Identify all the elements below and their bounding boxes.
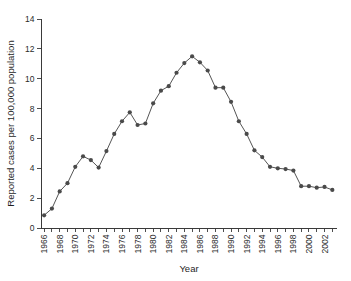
data-point <box>221 86 225 90</box>
x-axis-title: Year <box>179 263 198 274</box>
line-chart: 0246810121419661968197019721974197619781… <box>0 0 351 281</box>
data-point <box>330 188 334 192</box>
data-point <box>167 84 171 88</box>
data-point <box>174 71 178 75</box>
x-tick-label: 1994 <box>257 234 267 253</box>
data-point <box>198 60 202 64</box>
data-point <box>245 132 249 136</box>
data-point <box>97 165 101 169</box>
data-point <box>135 123 139 127</box>
data-point <box>315 186 319 190</box>
data-point <box>276 166 280 170</box>
x-tick-label: 1980 <box>148 234 158 253</box>
x-tick-label: 1972 <box>86 234 96 253</box>
y-tick-label: 10 <box>25 74 35 84</box>
y-tick-label: 12 <box>25 44 35 54</box>
data-point <box>120 119 124 123</box>
x-tick-label: 1990 <box>226 234 236 253</box>
data-point <box>73 165 77 169</box>
data-point <box>159 89 163 93</box>
data-point <box>104 149 108 153</box>
x-tick-label: 2000 <box>304 234 314 253</box>
data-point <box>128 110 132 114</box>
y-tick-label: 0 <box>30 223 35 233</box>
data-point <box>182 61 186 65</box>
x-tick-label: 1996 <box>273 234 283 253</box>
data-point <box>58 189 62 193</box>
data-point <box>268 165 272 169</box>
data-point <box>206 68 210 72</box>
y-axis-title: Reported cases per 100,000 population <box>5 40 16 206</box>
data-point <box>50 206 54 210</box>
data-point <box>190 54 194 58</box>
x-tick-label: 1998 <box>288 234 298 253</box>
data-point <box>65 181 69 185</box>
series-line <box>44 56 332 215</box>
data-point <box>112 132 116 136</box>
axis-labels: 0246810121419661968197019721974197619781… <box>5 14 330 274</box>
x-tick-label: 1968 <box>55 234 65 253</box>
x-tick-label: 1982 <box>164 234 174 253</box>
data-point <box>81 154 85 158</box>
data-point <box>299 184 303 188</box>
axes <box>37 19 337 232</box>
x-tick-label: 1988 <box>210 234 220 253</box>
x-tick-label: 1976 <box>117 234 127 253</box>
chart-figure: 0246810121419661968197019721974197619781… <box>0 0 351 281</box>
data-point <box>89 158 93 162</box>
x-tick-label: 1984 <box>179 234 189 253</box>
x-tick-label: 1970 <box>70 234 80 253</box>
x-tick-label: 1986 <box>195 234 205 253</box>
data-point <box>260 155 264 159</box>
data-point <box>252 148 256 152</box>
x-tick-label: 2002 <box>320 234 330 253</box>
y-tick-label: 2 <box>30 193 35 203</box>
data-point <box>322 185 326 189</box>
data-point <box>213 86 217 90</box>
x-tick-label: 1974 <box>101 234 111 253</box>
y-tick-label: 4 <box>30 163 35 173</box>
data-series <box>42 54 334 217</box>
data-point <box>283 167 287 171</box>
data-point <box>291 168 295 172</box>
x-tick-label: 1992 <box>242 234 252 253</box>
y-tick-label: 6 <box>30 133 35 143</box>
data-point <box>307 184 311 188</box>
data-point <box>42 213 46 217</box>
data-point <box>151 101 155 105</box>
data-point <box>143 121 147 125</box>
y-tick-label: 8 <box>30 104 35 114</box>
data-point <box>237 119 241 123</box>
x-tick-label: 1966 <box>39 234 49 253</box>
x-tick-label: 1978 <box>133 234 143 253</box>
y-tick-label: 14 <box>25 14 35 24</box>
data-point <box>229 100 233 104</box>
